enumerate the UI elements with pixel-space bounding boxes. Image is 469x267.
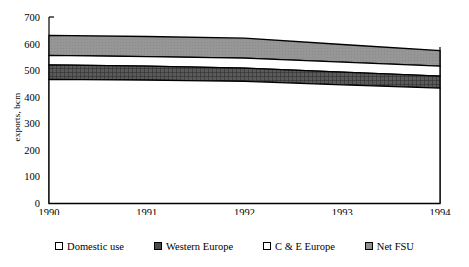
y-tick-label: 100: [24, 171, 40, 182]
legend-label: Net FSU: [377, 241, 414, 252]
y-tick-label: 500: [24, 65, 40, 76]
x-tick-labels: 1990 1991 1992 1993 1994: [39, 207, 452, 215]
chart-container: exports, bcm 700 600 500 400 300: [0, 0, 469, 267]
x-tick-label: 1991: [136, 207, 157, 215]
legend-item-western-europe[interactable]: Western Europe: [154, 241, 233, 252]
x-tick-label: 1994: [430, 207, 452, 215]
legend-label: Domestic use: [67, 241, 124, 252]
gray-square-icon: [365, 242, 373, 250]
chart-legend: Domestic use Western Europe C & E Europe…: [0, 232, 469, 260]
legend-label: C & E Europe: [275, 241, 335, 252]
dark-square-icon: [154, 242, 162, 250]
legend-item-domestic-use[interactable]: Domestic use: [55, 241, 124, 252]
x-tick-label: 1992: [234, 207, 255, 215]
legend-item-c-and-e-europe[interactable]: C & E Europe: [263, 241, 335, 252]
x-tick-label: 1990: [39, 207, 60, 215]
y-tick-label: 300: [24, 118, 40, 129]
chart-svg: 700 600 500 400 300 200 100 0: [0, 0, 469, 215]
y-axis-title: exports, bcm: [12, 62, 22, 172]
series-area-domestic-use: [49, 79, 440, 203]
legend-label: Western Europe: [166, 241, 233, 252]
y-tick-labels: 700 600 500 400 300 200 100 0: [24, 12, 40, 209]
y-tick-label: 200: [24, 145, 40, 156]
x-tick-label: 1993: [332, 207, 353, 215]
white-square-icon: [55, 242, 63, 250]
y-tick-label: 600: [24, 39, 40, 50]
y-tick-label: 700: [24, 12, 40, 23]
y-tick-label: 400: [24, 92, 40, 103]
white-square-icon: [263, 242, 271, 250]
plot-area: exports, bcm 700 600 500 400 300: [0, 0, 469, 215]
legend-item-net-fsu[interactable]: Net FSU: [365, 241, 414, 252]
